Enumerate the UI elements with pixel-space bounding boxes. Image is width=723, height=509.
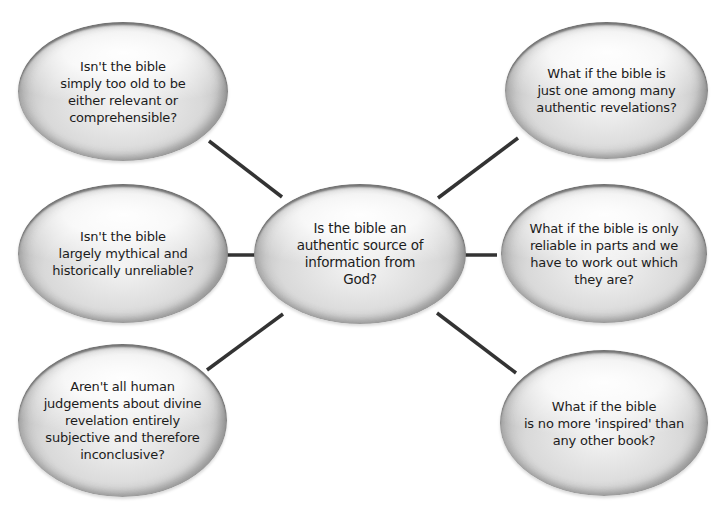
bubble-text: Isn't the bible largely mythical and his… <box>52 228 193 279</box>
connector-top-left <box>209 141 282 197</box>
center-question-text: Is the bible an authentic source of info… <box>297 220 424 288</box>
bubble-text: Aren't all human judgements about divine… <box>44 378 202 463</box>
bubble-text: What if the bible is no more 'inspired' … <box>524 398 684 449</box>
connector-top-right <box>438 138 518 198</box>
bubble-top-right: What if the bible is just one among many… <box>505 22 708 159</box>
bubble-bottom-left: Aren't all human judgements about divine… <box>18 344 227 497</box>
bubble-text: What if the bible is just one among many… <box>536 65 676 116</box>
mind-map-diagram: Isn't the bible simply too old to be eit… <box>0 0 723 509</box>
bubble-bottom-right: What if the bible is no more 'inspired' … <box>500 350 708 496</box>
bubble-middle-right: What if the bible is only reliable in pa… <box>501 184 707 323</box>
bubble-text: What if the bible is only reliable in pa… <box>530 220 679 288</box>
connector-bottom-left <box>207 314 283 370</box>
bubble-text: Isn't the bible simply too old to be eit… <box>60 58 185 126</box>
bubble-center: Is the bible an authentic source of info… <box>254 184 466 324</box>
bubble-top-left: Isn't the bible simply too old to be eit… <box>18 22 228 161</box>
connector-bottom-right <box>437 313 516 373</box>
bubble-middle-left: Isn't the bible largely mythical and his… <box>18 184 228 323</box>
